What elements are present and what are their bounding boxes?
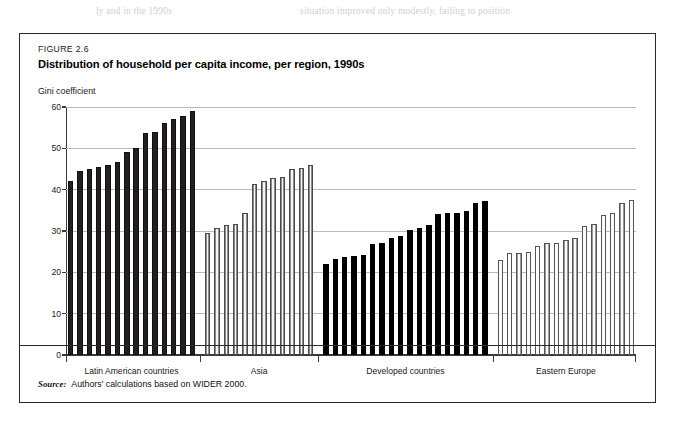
x-axis-group-label: Asia — [251, 366, 268, 376]
bar — [96, 167, 101, 355]
bar — [407, 230, 412, 355]
y-tick-label-60: 60 — [51, 103, 61, 112]
bar — [516, 253, 521, 355]
bar — [426, 225, 431, 355]
bar — [152, 132, 157, 355]
page-bleed-right: situation improved only modestly, failin… — [300, 6, 510, 16]
bar — [233, 224, 238, 355]
bar — [124, 152, 129, 355]
x-axis-group-label: Latin American countries — [84, 366, 178, 376]
bar — [482, 201, 487, 355]
source-divider — [20, 345, 655, 346]
bar — [190, 111, 195, 355]
bar — [572, 238, 577, 355]
page-bleed-left: ly and in the 1990s — [96, 6, 172, 16]
bar — [582, 226, 587, 355]
bar — [629, 200, 634, 355]
bar — [398, 236, 403, 355]
bar — [224, 225, 229, 355]
y-axis-title: Gini coefficient — [38, 86, 96, 96]
bar — [162, 123, 167, 355]
plot-wrapper: 0102030405060 — [66, 107, 636, 355]
bar — [323, 264, 328, 355]
bar — [464, 211, 469, 355]
bar — [308, 165, 313, 355]
y-tick-label-0: 0 — [56, 351, 61, 360]
bar — [554, 243, 559, 355]
figure-container: FIGURE 2.6 Distribution of household per… — [19, 33, 656, 403]
bar — [214, 228, 219, 355]
bar — [445, 213, 450, 355]
y-tick-label-30: 30 — [51, 227, 61, 236]
bar — [417, 228, 422, 355]
bar — [133, 148, 138, 355]
bar — [105, 165, 110, 355]
bar — [498, 260, 503, 355]
bar — [473, 203, 478, 355]
bar — [370, 244, 375, 355]
bar — [591, 224, 596, 355]
bar — [261, 181, 266, 355]
bar — [289, 169, 294, 355]
bar — [342, 257, 347, 355]
y-tick-label-20: 20 — [51, 268, 61, 277]
bar — [619, 203, 624, 355]
bar — [351, 256, 356, 355]
bar — [180, 116, 185, 355]
bar — [171, 119, 176, 355]
bar — [389, 238, 394, 355]
bar — [535, 246, 540, 355]
bar — [87, 169, 92, 355]
bar — [333, 259, 338, 355]
y-tick-label-50: 50 — [51, 144, 61, 153]
bar — [280, 177, 285, 355]
bar — [379, 243, 384, 355]
bar — [361, 255, 366, 355]
y-tick-label-40: 40 — [51, 185, 61, 194]
bars-layer — [66, 107, 636, 355]
bar — [601, 215, 606, 355]
y-tick-label-10: 10 — [51, 309, 61, 318]
bar — [507, 253, 512, 355]
bar — [77, 171, 82, 355]
x-axis-group-label: Eastern Europe — [536, 366, 596, 376]
bar — [252, 184, 257, 355]
bar — [115, 162, 120, 355]
bar — [563, 240, 568, 355]
bar — [610, 213, 615, 355]
bar — [68, 181, 73, 355]
x-axis-group-label: Developed countries — [366, 366, 444, 376]
x-axis: Latin American countriesAsiaDeveloped co… — [66, 355, 636, 371]
figure-title: Distribution of household per capita inc… — [38, 58, 364, 70]
source-text: Authors' calculations based on WIDER 200… — [71, 379, 246, 389]
bar — [205, 233, 210, 355]
page-text-bleed: ly and in the 1990s situation improved o… — [0, 2, 675, 28]
bar — [435, 214, 440, 355]
bar — [242, 213, 247, 355]
source-label: Source: — [38, 379, 66, 389]
bar — [526, 252, 531, 355]
bar — [454, 213, 459, 355]
bar — [143, 133, 148, 355]
x-axis-line — [66, 355, 636, 356]
bar — [270, 178, 275, 355]
bar — [299, 168, 304, 355]
bar — [544, 243, 549, 355]
figure-number: FIGURE 2.6 — [38, 44, 89, 54]
source-note: Source:Authors' calculations based on WI… — [38, 379, 247, 389]
